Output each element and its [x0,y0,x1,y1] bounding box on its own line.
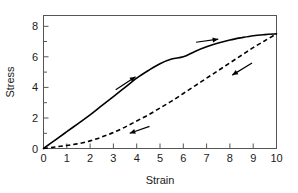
loading-arrow-upper-icon [196,37,218,42]
y-tick-label-2: 2 [32,112,38,124]
x-tick-label-10: 10 [270,152,282,164]
unloading-arrow-upper-icon [232,63,252,75]
y-axis-tick-labels: 0 2 4 6 8 [32,20,38,154]
x-axis-title: Strain [146,174,175,186]
y-tick-label-0: 0 [32,143,38,155]
x-tick-label-7: 7 [204,152,210,164]
x-tick-label-6: 6 [180,152,186,164]
y-axis-major-ticks [44,26,49,148]
unloading-curve-dashed [44,34,277,149]
x-tick-label-9: 9 [250,152,256,164]
x-tick-label-4: 4 [134,152,140,164]
x-axis-ticks [44,144,277,149]
x-tick-label-2: 2 [87,152,93,164]
data-curves [44,34,277,149]
x-tick-label-1: 1 [64,152,70,164]
direction-arrows [116,37,252,133]
y-tick-label-8: 8 [32,20,38,32]
y-axis-title: Stress [4,66,16,98]
loading-curve-solid [44,34,277,149]
x-tick-label-0: 0 [40,152,46,164]
y-tick-label-6: 6 [32,51,38,63]
unloading-arrow-lower-icon [130,126,150,133]
x-tick-label-3: 3 [110,152,116,164]
y-tick-label-4: 4 [32,81,38,93]
chart-figure: 0 2 4 6 8 0 1 2 3 4 5 6 [0,0,298,193]
x-tick-label-8: 8 [227,152,233,164]
x-axis-tick-labels: 0 1 2 3 4 5 6 7 8 9 10 [40,152,282,164]
chart-canvas: 0 2 4 6 8 0 1 2 3 4 5 6 [0,0,298,193]
plot-frame [44,16,277,149]
x-tick-label-5: 5 [157,152,163,164]
